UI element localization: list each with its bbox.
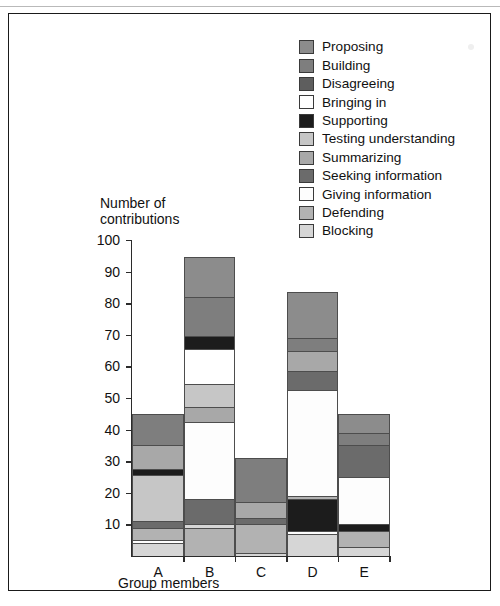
bar-segment[interactable] — [338, 414, 390, 433]
x-axis-tick — [286, 556, 287, 562]
bar-segment[interactable] — [132, 543, 184, 556]
bar-segment[interactable] — [338, 445, 390, 477]
bar-segment[interactable] — [132, 540, 184, 543]
y-axis-tick-label: 60 — [86, 359, 120, 373]
y-axis-tick-label: 50 — [86, 391, 120, 405]
bar-segment[interactable] — [235, 524, 287, 552]
bar-segment[interactable] — [235, 502, 287, 518]
bar-segment[interactable] — [338, 524, 390, 530]
y-axis-tick-label: 70 — [86, 328, 120, 342]
y-axis-tick-label: 10 — [86, 517, 120, 531]
chart-page: ProposingBuildingDisagreeingBringing inS… — [0, 0, 500, 606]
y-axis-tick — [126, 240, 132, 241]
y-axis-tick-label: 30 — [86, 454, 120, 468]
x-axis-tick-label: C — [246, 565, 276, 579]
x-axis-tick — [338, 556, 339, 562]
bar-segment[interactable] — [184, 407, 236, 421]
bar-segment[interactable] — [184, 524, 236, 527]
bar-e[interactable] — [338, 240, 390, 556]
bar-segment[interactable] — [287, 496, 339, 499]
bar-segment[interactable] — [132, 528, 184, 541]
bar-segment[interactable] — [287, 534, 339, 556]
bar-segment[interactable] — [184, 297, 236, 337]
bar-segment[interactable] — [235, 458, 287, 502]
x-axis-tick — [183, 556, 184, 562]
y-axis-tick — [126, 366, 132, 367]
bar-segment[interactable] — [184, 336, 236, 349]
y-axis-tick — [126, 524, 132, 525]
bar-segment[interactable] — [287, 499, 339, 531]
bar-segment[interactable] — [184, 349, 236, 384]
bar-segment[interactable] — [338, 547, 390, 556]
bar-c[interactable] — [235, 240, 287, 556]
plot-area: 102030405060708090100ABCDE — [0, 0, 500, 606]
y-axis-tick-label: 80 — [86, 296, 120, 310]
bar-segment[interactable] — [132, 475, 184, 521]
bar-segment[interactable] — [287, 292, 339, 338]
x-axis-tick-label: E — [349, 565, 379, 579]
y-axis-tick-label: 20 — [86, 486, 120, 500]
bar-segment[interactable] — [287, 351, 339, 372]
y-axis-tick — [126, 335, 132, 336]
bar-segment[interactable] — [338, 433, 390, 446]
bar-segment[interactable] — [287, 371, 339, 390]
bar-segment[interactable] — [235, 553, 287, 556]
y-axis-tick-label: 100 — [86, 233, 120, 247]
bar-segment[interactable] — [287, 338, 339, 351]
x-axis-tick — [389, 556, 390, 562]
y-axis-tick — [126, 398, 132, 399]
bar-b[interactable] — [184, 240, 236, 556]
bar-d[interactable] — [287, 240, 339, 556]
bar-a[interactable] — [132, 240, 184, 556]
bar-segment[interactable] — [338, 531, 390, 547]
x-axis-tick — [235, 556, 236, 562]
bar-segment[interactable] — [132, 414, 184, 446]
y-axis-tick — [126, 461, 132, 462]
y-axis-tick — [126, 272, 132, 273]
bar-segment[interactable] — [184, 499, 236, 524]
bar-segment[interactable] — [287, 390, 339, 496]
bar-segment[interactable] — [287, 531, 339, 534]
x-axis-tick-label: D — [298, 565, 328, 579]
bar-segment[interactable] — [184, 384, 236, 408]
y-axis-tick-label: 90 — [86, 265, 120, 279]
bar-segment[interactable] — [132, 445, 184, 469]
bar-segment[interactable] — [132, 469, 184, 475]
bar-segment[interactable] — [132, 521, 184, 527]
y-axis-tick — [126, 303, 132, 304]
bar-segment[interactable] — [184, 528, 236, 556]
bar-segment[interactable] — [338, 477, 390, 524]
y-axis-tick — [126, 493, 132, 494]
x-axis-title: Group members — [118, 576, 219, 590]
y-axis-tick-label: 40 — [86, 423, 120, 437]
x-axis-line — [131, 556, 390, 557]
y-axis-tick — [126, 430, 132, 431]
bar-segment[interactable] — [184, 422, 236, 499]
bar-segment[interactable] — [235, 518, 287, 524]
bar-segment[interactable] — [184, 257, 236, 297]
